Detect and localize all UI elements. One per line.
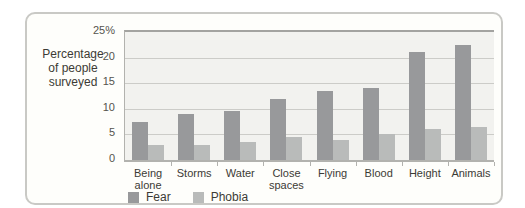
category-label: Flying (310, 167, 356, 191)
y-tick-label: 5 (27, 126, 115, 138)
category-label: Being alone (125, 167, 171, 191)
y-tick-label: 10 (27, 101, 115, 113)
x-axis-tick (263, 162, 264, 166)
category-label: Animals (448, 167, 494, 191)
x-axis-tick (217, 162, 218, 166)
fear-bar (317, 91, 333, 160)
legend-label-fear: Fear (146, 190, 171, 204)
fear-bar (132, 122, 148, 160)
legend: Fear Phobia (128, 190, 248, 204)
x-axis-tick (356, 162, 357, 166)
phobia-bar (286, 137, 302, 160)
phobia-bar (148, 145, 164, 160)
phobia-bar (425, 129, 441, 160)
category-label: Storms (171, 167, 217, 191)
bar-group-flying (310, 32, 356, 160)
x-axis-tick (171, 162, 172, 166)
legend-item-fear: Fear (128, 190, 171, 204)
fear-bar (455, 45, 471, 160)
category-label: Close spaces (263, 167, 309, 191)
bar-group-animals (448, 32, 494, 160)
phobia-bar (194, 145, 210, 160)
fear-color-swatch (128, 192, 139, 203)
phobia-bar (379, 134, 395, 160)
fear-bar (409, 52, 425, 160)
phobia-color-swatch (193, 192, 204, 203)
bar-group-water (217, 32, 263, 160)
legend-label-phobia: Phobia (211, 190, 248, 204)
phobia-bar (471, 127, 487, 160)
plot-area (124, 30, 494, 162)
bar-group-close-spaces (263, 32, 309, 160)
x-axis-tick (310, 162, 311, 166)
page: Percentage of people surveyed 25%2015105… (0, 0, 525, 208)
y-tick-label: 20 (27, 50, 115, 62)
category-label: Blood (356, 167, 402, 191)
y-tick-label: 0 (27, 152, 115, 164)
fear-bar (270, 99, 286, 160)
category-label: Water (217, 167, 263, 191)
fear-bar (178, 114, 194, 160)
bar-group-height (402, 32, 448, 160)
category-labels-row: Being aloneStormsWaterClose spacesFlying… (125, 167, 494, 191)
bar-group-storms (171, 32, 217, 160)
x-axis-tick (494, 162, 495, 166)
phobia-bar (333, 140, 349, 160)
y-tick-label: 15 (27, 75, 115, 87)
y-axis-title-line: of people (32, 61, 114, 75)
fear-bar (363, 88, 379, 160)
y-tick-label: 25% (27, 24, 115, 36)
x-axis-tick (448, 162, 449, 166)
x-axis-tick (402, 162, 403, 166)
chart-card: Percentage of people surveyed 25%2015105… (25, 12, 503, 205)
legend-item-phobia: Phobia (193, 190, 248, 204)
fear-bar (224, 111, 240, 160)
phobia-bar (240, 142, 256, 160)
bar-group-blood (356, 32, 402, 160)
bar-group-being-alone (125, 32, 171, 160)
category-label: Height (402, 167, 448, 191)
bars-container (125, 32, 494, 160)
